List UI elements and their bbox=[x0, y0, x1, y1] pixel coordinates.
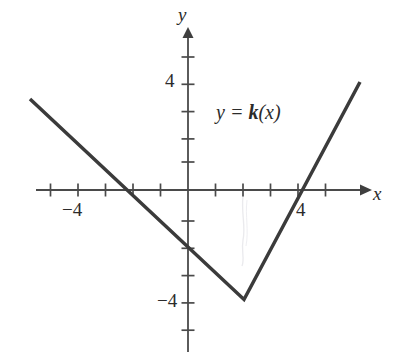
y-tick-label-negative-4: −4 bbox=[157, 290, 177, 312]
x-axis-label: x bbox=[373, 183, 381, 205]
x-axis bbox=[36, 185, 372, 196]
x-tick-label-positive-4: 4 bbox=[296, 199, 306, 221]
x-tick-label-negative-4: −4 bbox=[62, 199, 82, 221]
annotation-function-name: k bbox=[248, 101, 258, 123]
annotation-prefix: y = bbox=[216, 101, 248, 123]
plot-area bbox=[0, 0, 397, 362]
graph-figure: y x −4 4 4 −4 y = k(x) bbox=[0, 0, 397, 362]
annotation-function-argument: (x) bbox=[258, 101, 280, 123]
y-axis-label: y bbox=[178, 4, 186, 26]
pencil-smudge-artifact bbox=[242, 196, 247, 266]
y-tick-label-positive-4: 4 bbox=[165, 70, 175, 92]
function-annotation-label: y = k(x) bbox=[216, 101, 281, 124]
